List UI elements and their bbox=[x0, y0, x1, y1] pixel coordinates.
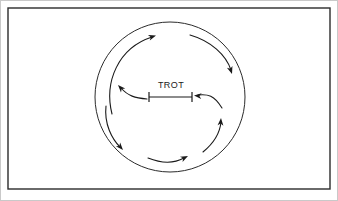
arc-arrow-upper-right bbox=[190, 35, 231, 70]
arc-arrow-right-inward-head bbox=[194, 93, 202, 99]
arc-arrow-lower-right-up bbox=[203, 122, 221, 152]
arc-arrow-upper-left bbox=[110, 37, 152, 114]
trot-span-marker bbox=[149, 92, 192, 102]
arc-arrow-upper-left-head bbox=[148, 33, 157, 41]
trot-diagram-figure: TROT bbox=[0, 0, 338, 201]
arc-arrow-right-inward bbox=[198, 95, 222, 108]
arc-arrow-lower-left bbox=[106, 106, 120, 147]
trot-label: TROT bbox=[154, 80, 188, 90]
arc-arrow-left-outward bbox=[121, 88, 147, 99]
diagram-canvas bbox=[0, 0, 338, 201]
arc-arrow-bottom bbox=[148, 158, 184, 162]
arc-arrow-bottom-head bbox=[180, 153, 189, 162]
arc-arrow-upper-right-head bbox=[227, 66, 235, 75]
